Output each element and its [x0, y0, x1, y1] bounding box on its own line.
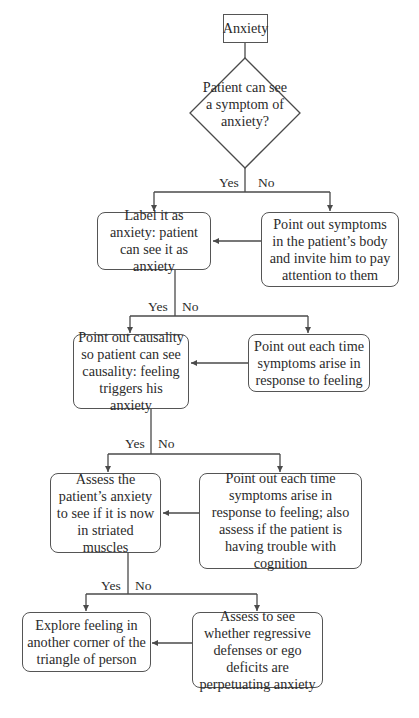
start-node-anxiety: Anxiety [223, 14, 268, 43]
node-point-out-each-time: Point out each time symptoms arise in re… [248, 334, 370, 392]
decision-node: Patient can see a symptom of anxiety? [200, 79, 290, 130]
node-point-out-symptoms: Point out symptoms in the patient’s body… [261, 212, 399, 287]
no-label-4: No [135, 579, 152, 593]
node-point-out-causality: Point out causality so patient can see c… [73, 334, 189, 409]
no-label-1: No [258, 176, 275, 190]
yes-label-1: Yes [219, 176, 239, 190]
node-label-as-anxiety: Label it as anxiety: patient can see it … [97, 212, 211, 270]
no-label-2: No [182, 300, 199, 314]
no-label-3: No [158, 437, 175, 451]
node-assess-defenses: Assess to see whether regressive defense… [192, 612, 323, 688]
yes-label-4: Yes [101, 579, 121, 593]
node-assess-cognition: Point out each time symptoms arise in re… [199, 473, 362, 569]
node-explore-feeling: Explore feeling in another corner of the… [22, 612, 151, 672]
yes-label-3: Yes [125, 437, 145, 451]
yes-label-2: Yes [148, 300, 168, 314]
node-assess-striated-muscles: Assess the patient’s anxiety to see if i… [50, 473, 161, 553]
